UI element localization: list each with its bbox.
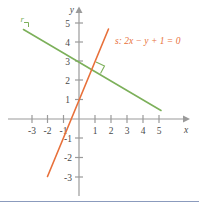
axis-group [8, 7, 190, 197]
y-tick-label--2: -2 [64, 153, 72, 163]
right-angle-marker-icon [96, 62, 105, 74]
x-tick-label-2: 2 [109, 126, 114, 136]
x-tick-label-4: 4 [141, 126, 146, 136]
line-graph-figure: -3 -2 -1 1 2 3 4 5 5 4 3 2 1 -1 -2 -3 y … [0, 0, 199, 202]
y-tick-label-3: 3 [65, 57, 70, 67]
y-tick-labels: 5 4 3 2 1 -1 -2 -3 [64, 19, 72, 183]
x-tick-label-5: 5 [157, 126, 162, 136]
line-r-label-group: r [21, 14, 29, 27]
y-tick-label-2: 2 [65, 76, 70, 86]
y-tick-label-4: 4 [65, 38, 70, 48]
line-s [48, 29, 109, 177]
y-tick-label-5: 5 [65, 19, 70, 29]
bottom-divider [0, 201, 199, 202]
y-tick-label--3: -3 [64, 173, 72, 183]
x-axis-arrow-icon [183, 116, 190, 123]
x-tick-label--2: -2 [44, 126, 52, 136]
x-tick-label-1: 1 [93, 126, 98, 136]
line-r-label: r [21, 14, 25, 24]
x-tick-labels: -3 -2 -1 1 2 3 4 5 [28, 126, 162, 136]
coordinate-plot: -3 -2 -1 1 2 3 4 5 5 4 3 2 1 -1 -2 -3 y … [0, 0, 199, 202]
x-axis-label: x [183, 125, 189, 135]
y-axis-label: y [69, 5, 75, 15]
line-r-label-tick-icon [24, 23, 29, 28]
y-axis-arrow-icon [76, 7, 83, 14]
line-s-label: s: 2x − y + 1 = 0 [115, 36, 181, 46]
y-tick-label-1: 1 [65, 95, 70, 105]
x-tick-label--3: -3 [28, 126, 36, 136]
x-tick-label-3: 3 [125, 126, 130, 136]
